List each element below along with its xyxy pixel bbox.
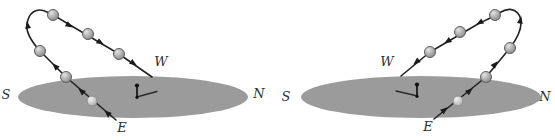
left-diagram: S W N E	[2, 10, 266, 136]
label-east: E	[422, 119, 433, 134]
figure-canvas: S W N E S W N E	[0, 0, 555, 140]
sun-ball	[83, 29, 94, 40]
gnomon-head-icon	[135, 83, 139, 87]
sun-ball	[455, 27, 466, 38]
sun-ball	[48, 10, 59, 21]
sun-path-figure: S W N E S W N E	[0, 0, 555, 140]
label-north: N	[538, 89, 551, 104]
horizon-ellipse	[18, 76, 248, 118]
label-south: S	[282, 89, 291, 104]
right-diagram: S W N E	[282, 9, 552, 134]
label-west: W	[380, 54, 395, 69]
sun-ball	[505, 43, 516, 54]
sun-ball	[87, 96, 97, 106]
label-north: N	[252, 86, 265, 101]
sun-ball	[481, 72, 492, 83]
gnomon-head-icon	[415, 82, 419, 86]
sun-ball	[61, 72, 72, 83]
sun-ball	[114, 49, 125, 60]
gnomon-base-icon	[415, 95, 418, 98]
sun-ball	[453, 96, 463, 106]
sun-ball	[35, 46, 46, 57]
label-west: W	[154, 54, 169, 69]
horizon-ellipse	[301, 76, 541, 118]
gnomon-base-icon	[135, 96, 138, 99]
label-south: S	[2, 87, 11, 102]
label-east: E	[116, 120, 127, 135]
sun-ball	[490, 10, 501, 21]
sun-ball	[425, 47, 436, 58]
